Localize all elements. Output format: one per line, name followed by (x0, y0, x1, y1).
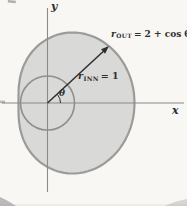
inner-label-subscript: INN (84, 75, 99, 82)
outer-radius-label: rOUT= 2 + cos θ (111, 30, 187, 39)
outer-label-subscript: OUT (116, 32, 132, 39)
angle-theta-label: θ (59, 89, 65, 98)
inner-radius-label: rINN= 1 (78, 71, 119, 82)
inner-label-value: = 1 (101, 70, 119, 81)
inner-label-variable: r (78, 70, 83, 81)
figure-canvas: y x rOUT= 2 + cos θ rINN= 1 θ (0, 0, 187, 206)
outer-label-formula: = 2 + cos θ (134, 29, 187, 39)
scan-smudge-left-edge (0, 101, 5, 104)
x-axis-label: x (172, 105, 179, 116)
y-axis-label: y (51, 1, 57, 12)
scan-smudge-bottom-edge (0, 204, 187, 206)
scan-smudge-top-left (8, 0, 16, 3)
